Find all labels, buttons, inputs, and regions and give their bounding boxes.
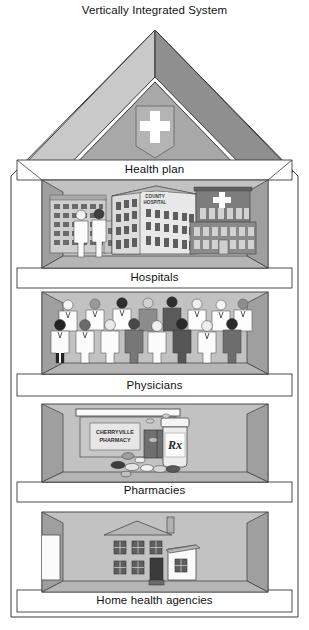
floor-label-home-health: Home health agencies: [0, 594, 309, 606]
hospitals-scene: COUNTY HOSPITAL: [50, 186, 256, 257]
floor-label-health-plan: Health plan: [0, 163, 309, 175]
floor-physicians: [42, 292, 268, 374]
county-hospital-sign-line1: COUNTY: [145, 194, 164, 199]
pill-bottle: Rx: [161, 418, 189, 467]
floor-hospitals: COUNTY HOSPITAL: [42, 180, 268, 268]
county-hospital-building: COUNTY HOSPITAL: [112, 186, 196, 254]
floor-label-hospitals: Hospitals: [0, 271, 309, 283]
floor-label-physicians: Physicians: [0, 379, 309, 391]
hospital-building-right: [190, 187, 256, 254]
pharmacy-sign-line2: PHARMACY: [99, 437, 131, 443]
pharmacy-sign-line1: CHERRYVILLE: [96, 429, 134, 435]
house-diagram: COUNTY HOSPITAL: [0, 0, 309, 630]
county-hospital-sign-line2: HOSPITAL: [144, 200, 167, 205]
floor-pharmacies: CHERRYVILLE PHARMACY Rx: [42, 404, 268, 482]
diagram-canvas: Vertically Integrated System: [0, 0, 309, 630]
floor-label-pharmacies: Pharmacies: [0, 484, 309, 496]
rx-label: Rx: [167, 438, 182, 452]
